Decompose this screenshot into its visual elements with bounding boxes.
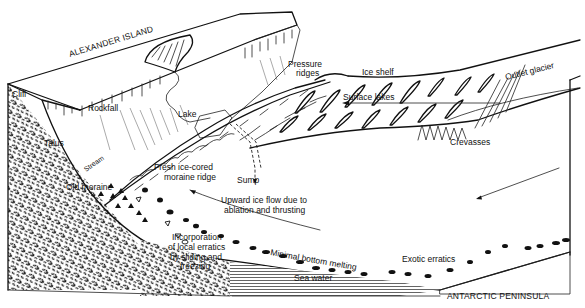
label-lake: Lake [178, 109, 197, 119]
glacial-diagram: ALEXANDER ISLAND Cliff Rockfall Talus St… [0, 0, 585, 308]
label-fresh-moraine-1: Fresh ice-cored [154, 162, 213, 172]
label-cliff: Cliff [12, 89, 27, 99]
label-rockfall: Rockfall [88, 103, 118, 113]
label-antarctic-peninsula: ANTARCTIC PENINSULA [447, 291, 549, 301]
label-upward-flow-2: ablation and thrusting [224, 205, 306, 215]
label-talus: Talus [44, 138, 64, 148]
label-sea-water: Sea water [294, 273, 332, 283]
label-stream: Stream [83, 154, 106, 173]
label-alexander-island: ALEXANDER ISLAND [68, 24, 155, 59]
label-upward-flow-1: Upward ice flow due to [221, 195, 307, 205]
label-incorporation-1: Incorporation [172, 232, 222, 242]
label-exotic-erratics: Exotic erratics [402, 254, 455, 264]
label-pressure-ridges-2: ridges [296, 68, 319, 78]
label-sump: Sump [237, 175, 259, 185]
outlet-flow-arrow [478, 168, 559, 198]
label-ice-shelf: Ice shelf [362, 67, 394, 77]
label-incorporation-4: freezing [180, 261, 211, 271]
label-fresh-moraine-2: moraine ridge [164, 172, 216, 182]
label-crevasses: Crevasses [450, 137, 490, 147]
label-outlet-glacier: Outlet glacier [504, 60, 555, 82]
arrow-left-icon [476, 196, 482, 200]
label-incorporation-2: of local erratics [168, 242, 225, 252]
arrow-head-icon [190, 190, 196, 195]
moraine-ridge [105, 74, 348, 205]
label-old-moraine: Old moraine [66, 182, 113, 192]
label-surface-lakes: Surface lakes [343, 92, 395, 102]
